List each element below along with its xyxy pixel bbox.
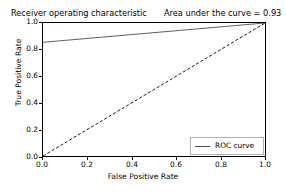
xtick-label-0.0: 0.0 [30,161,54,169]
auc-annotation: Area under the curve = 0.93 [164,8,281,18]
ytick-label-0.4: 0.4 [26,99,38,107]
x-axis-title: False Positive Rate [0,172,286,181]
xtick-label-0.6: 0.6 [164,161,188,169]
ytick-label-0.2: 0.2 [26,126,38,134]
y-axis-title: True Positive Rate [14,18,23,128]
legend: ROC curve [190,137,264,155]
ytick-label-0.8: 0.8 [26,45,38,53]
xtick-label-0.8: 0.8 [209,161,233,169]
xtick-label-0.4: 0.4 [120,161,144,169]
ytick-label-0.6: 0.6 [26,72,38,80]
legend-label-roc-curve: ROC curve [215,142,254,150]
legend-line-swatch-roc-curve [195,146,210,147]
xtick-label-0.2: 0.2 [75,161,99,169]
ytick-label-1.0: 1.0 [26,18,38,26]
xtick-label-1.0: 1.0 [253,161,277,169]
roc-chart-figure: Receiver operating characteristic Area u… [0,0,286,192]
roc-curve-line [43,23,265,42]
